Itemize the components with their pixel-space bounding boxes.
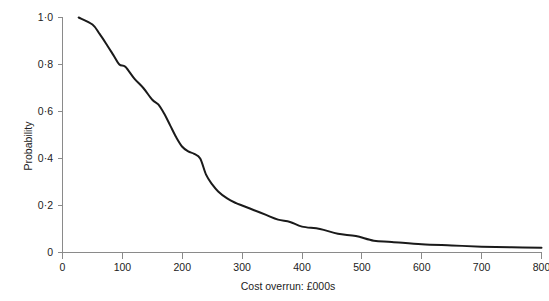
x-tick-label-0: 0 (60, 261, 66, 273)
y-tick-label-02: 0·2 (38, 199, 53, 211)
x-tick-label-400: 400 (293, 261, 311, 273)
x-tick-label-200: 200 (174, 261, 192, 273)
y-axis-tick-labels: 0 0·2 0·4 0·6 0·8 1·0 (38, 11, 53, 258)
y-tick-label-04: 0·4 (38, 152, 53, 164)
probability-curve (79, 18, 542, 248)
probability-line-chart: 0 0·2 0·4 0·6 0·8 1·0 0 100 200 300 400 … (0, 0, 549, 301)
x-tick-label-500: 500 (353, 261, 371, 273)
y-axis-title: Probability (22, 121, 34, 171)
y-tick-label-10: 1·0 (38, 11, 53, 23)
y-tick-label-0: 0 (47, 246, 53, 258)
chart-figure: 0 0·2 0·4 0·6 0·8 1·0 0 100 200 300 400 … (0, 0, 549, 301)
x-tick-label-700: 700 (473, 261, 491, 273)
y-axis-ticks (58, 18, 63, 253)
y-tick-label-06: 0·6 (38, 105, 53, 117)
x-axis-tick-labels: 0 100 200 300 400 500 600 700 800 (60, 261, 549, 273)
x-axis-title: Cost overrun: £000s (241, 280, 336, 292)
x-tick-label-600: 600 (413, 261, 431, 273)
x-axis-ticks (63, 253, 542, 259)
x-tick-label-100: 100 (114, 261, 132, 273)
x-tick-label-800: 800 (533, 261, 549, 273)
x-tick-label-300: 300 (233, 261, 251, 273)
y-tick-label-08: 0·8 (38, 58, 53, 70)
